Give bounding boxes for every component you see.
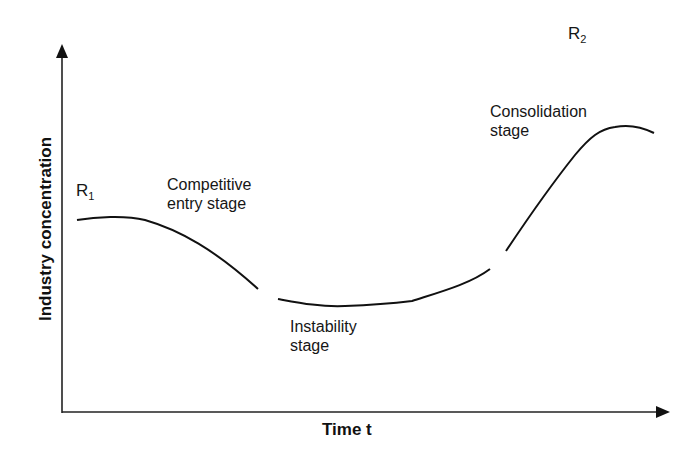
curve-consolidation <box>506 126 654 251</box>
instability-label: Instability stage <box>290 317 357 355</box>
curve-instability <box>278 269 490 306</box>
x-axis-label: Time t <box>322 420 372 440</box>
y-axis-label: Industry concentration <box>36 129 56 329</box>
r2-label: R2 <box>568 24 586 49</box>
y-axis-arrow-icon <box>56 44 68 58</box>
competitive-entry-label: Competitive entry stage <box>167 175 251 213</box>
consolidation-label: Consolidation stage <box>490 102 587 140</box>
curve-competitive-entry <box>77 217 258 289</box>
chart-canvas <box>0 0 684 462</box>
r1-label: R1 <box>76 181 94 206</box>
x-axis-arrow-icon <box>656 406 670 418</box>
